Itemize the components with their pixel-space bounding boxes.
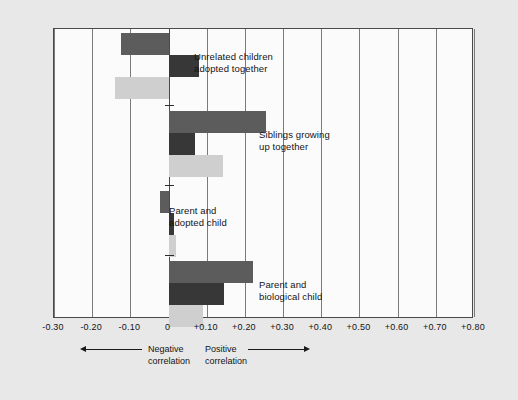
group-label: Parent andadopted child <box>169 205 227 228</box>
x-tick-label: -0.30 <box>42 322 64 332</box>
x-tick-label: +0.30 <box>270 322 294 332</box>
x-tick-label: -0.20 <box>80 322 102 332</box>
negative-arrow-head <box>80 346 86 352</box>
x-tick-label: +0.70 <box>423 322 447 332</box>
gridline <box>92 29 93 317</box>
bar <box>160 191 168 213</box>
bar <box>121 33 169 55</box>
positive-caption-line2: correlation <box>205 356 247 368</box>
positive-correlation-caption: Positive correlation <box>205 344 247 367</box>
negative-arrow-line <box>86 349 142 350</box>
x-tick-label: +0.80 <box>461 322 485 332</box>
group-label-line1: Parent and <box>169 205 227 217</box>
x-tick-label: +0.60 <box>385 322 409 332</box>
bar <box>115 77 168 99</box>
zero-axis-tick <box>165 105 174 106</box>
negative-caption-line2: correlation <box>148 356 190 368</box>
zero-axis-tick <box>165 185 174 186</box>
chart-page: Unrelated childrenadopted togetherSiblin… <box>0 0 518 400</box>
gridline <box>436 29 437 317</box>
gridline <box>398 29 399 317</box>
group-label-line2: up together <box>259 141 330 153</box>
negative-caption-line1: Negative <box>148 344 190 356</box>
positive-arrow-line <box>248 349 304 350</box>
bar <box>169 133 196 155</box>
group-label: Parent andbiological child <box>259 279 322 302</box>
gridline <box>54 29 55 317</box>
group-label: Unrelated childrenadopted together <box>194 51 273 74</box>
axis-direction-captions: Negative correlation Positive correlatio… <box>0 344 518 384</box>
gridline <box>130 29 131 317</box>
x-tick-label: +0.20 <box>232 322 256 332</box>
x-tick-label: +0.10 <box>194 322 218 332</box>
positive-caption-line1: Positive <box>205 344 247 356</box>
bar <box>169 283 224 305</box>
group-label-line2: adopted together <box>194 63 273 75</box>
gridline <box>359 29 360 317</box>
gridline <box>474 29 475 317</box>
x-axis-tick-labels: -0.30-0.20-0.100+0.10+0.20+0.30+0.40+0.5… <box>0 322 518 336</box>
plot-area: Unrelated childrenadopted togetherSiblin… <box>53 28 473 318</box>
group-label-line2: biological child <box>259 291 322 303</box>
bar <box>169 261 253 283</box>
group-label-line1: Siblings growing <box>259 129 330 141</box>
bar <box>169 111 266 133</box>
x-tick-label: -0.10 <box>119 322 141 332</box>
group-label: Siblings growingup together <box>259 129 330 152</box>
x-tick-label: +0.40 <box>308 322 332 332</box>
bar <box>169 235 177 257</box>
x-tick-label: 0 <box>165 322 170 332</box>
bar <box>169 155 224 177</box>
group-label-line1: Unrelated children <box>194 51 273 63</box>
gridline <box>321 29 322 317</box>
group-label-line1: Parent and <box>259 279 322 291</box>
group-label-line2: adopted child <box>169 217 227 229</box>
zero-axis-tick <box>165 255 174 256</box>
x-tick-label: +0.50 <box>347 322 371 332</box>
positive-arrow-head <box>304 346 310 352</box>
negative-correlation-caption: Negative correlation <box>148 344 190 367</box>
gridline <box>283 29 284 317</box>
